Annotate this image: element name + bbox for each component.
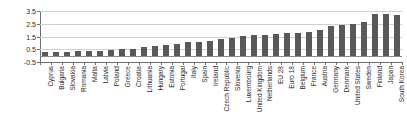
x-axis-tick-mark [358, 62, 359, 65]
bar[interactable] [372, 14, 378, 55]
bar[interactable] [262, 35, 268, 55]
bar[interactable] [97, 51, 103, 56]
bar[interactable] [207, 41, 213, 56]
bar[interactable] [339, 25, 345, 56]
x-axis-category-label: Cyprus [48, 66, 55, 87]
bar[interactable] [394, 15, 400, 55]
bar-slot [128, 11, 139, 62]
x-axis-category-label: Sweden [366, 66, 373, 90]
x-axis-category-label: Germany [333, 66, 340, 93]
bar-slot [106, 11, 117, 62]
x-axis-category-label: Belgium [300, 66, 307, 89]
bar[interactable] [86, 51, 92, 56]
x-axis-category-label: Latvia [103, 66, 110, 83]
bar[interactable] [174, 44, 180, 56]
x-axis-tick-mark [194, 62, 195, 65]
x-axis-tick-mark [380, 62, 381, 65]
x-axis-category-label: Hungary [158, 66, 165, 91]
x-axis-category-label: Denmark [344, 66, 351, 92]
bar[interactable] [361, 22, 367, 55]
x-axis-tick-mark [183, 62, 184, 65]
bar[interactable] [152, 46, 158, 56]
bar-slot [369, 11, 380, 62]
bar-slot [51, 11, 62, 62]
x-axis-category-label: Czech Republic [224, 66, 231, 112]
bar[interactable] [317, 30, 323, 56]
bar-slot [325, 11, 336, 62]
x-axis-tick-mark [336, 62, 337, 65]
x-axis-category-label: Italy [191, 66, 198, 78]
x-axis-category-label: Finland [377, 66, 384, 87]
y-axis-tick-mark [37, 11, 40, 12]
bar[interactable] [163, 45, 169, 56]
x-axis-tick-mark [106, 62, 107, 65]
x-axis-category-label: France [311, 66, 318, 86]
x-axis-tick-mark [150, 62, 151, 65]
bar[interactable] [251, 35, 257, 55]
x-axis-tick-mark [95, 62, 96, 65]
y-axis-tick-label: 1.5 [26, 33, 36, 40]
bar[interactable] [284, 33, 290, 55]
bar-slot [150, 11, 161, 62]
bar[interactable] [75, 51, 81, 55]
bar[interactable] [273, 34, 279, 56]
bar-slot [347, 11, 358, 62]
bar-slot [314, 11, 325, 62]
plot-area [40, 11, 402, 62]
x-axis-tick-mark [128, 62, 129, 65]
x-axis-category-label: Spain [202, 66, 209, 83]
x-axis-category-label: EU 28 [278, 66, 285, 84]
bar-slot [84, 11, 95, 62]
x-axis-tick-mark [117, 62, 118, 65]
x-axis-category-label: Estonia [169, 66, 176, 88]
bar-slot [161, 11, 172, 62]
bar-slot [117, 11, 128, 62]
x-axis-tick-mark [347, 62, 348, 65]
bar[interactable] [108, 50, 114, 56]
y-axis-tick-mark [37, 24, 40, 25]
bar-slot [292, 11, 303, 62]
bar[interactable] [218, 39, 224, 56]
bar[interactable] [229, 38, 235, 56]
bar[interactable] [130, 49, 136, 55]
bar[interactable] [185, 42, 191, 55]
bar[interactable] [328, 26, 334, 56]
x-axis-category-label: Bulgaria [59, 66, 66, 90]
x-axis-category-label: United Kingdom [257, 66, 264, 112]
x-axis-tick-mark [259, 62, 260, 65]
x-axis-category-label: Slovenia [235, 66, 242, 91]
x-axis-category-label: Ireland [213, 66, 220, 86]
x-axis-category-label: Poland [114, 66, 121, 86]
bar[interactable] [64, 52, 70, 56]
x-axis-category-label: Romania [81, 66, 88, 92]
x-axis-tick-mark [216, 62, 217, 65]
bar-slot [391, 11, 402, 62]
x-axis-category-label: South Korea [399, 66, 406, 102]
bar-chart-figure: 3.52.51.50.5-0.5 CyprusBulgariaSlovakiaR… [0, 0, 407, 131]
bar[interactable] [196, 42, 202, 55]
bar[interactable] [53, 52, 59, 56]
x-axis-category-label: Portugal [180, 66, 187, 90]
bar-slot [270, 11, 281, 62]
x-axis-tick-mark [281, 62, 282, 65]
x-axis-category-label: Luxembourg [246, 66, 253, 102]
bar[interactable] [42, 52, 48, 55]
x-axis-tick-mark [51, 62, 52, 65]
bar[interactable] [141, 47, 147, 56]
x-axis-category-label: Euro 18 [289, 66, 296, 89]
x-axis-tick-mark [292, 62, 293, 65]
x-axis-category-label: Greece [125, 66, 132, 87]
bar[interactable] [240, 36, 246, 56]
x-axis-tick-mark [73, 62, 74, 65]
bar[interactable] [295, 33, 301, 56]
bar[interactable] [350, 24, 356, 55]
x-axis-tick-mark [369, 62, 370, 65]
bar-slot [40, 11, 51, 62]
bar[interactable] [119, 49, 125, 55]
bar[interactable] [306, 32, 312, 56]
bar-slot [336, 11, 347, 62]
bar[interactable] [383, 14, 389, 56]
bar-slot [73, 11, 84, 62]
x-axis-tick-mark [226, 62, 227, 65]
bar-slot [281, 11, 292, 62]
